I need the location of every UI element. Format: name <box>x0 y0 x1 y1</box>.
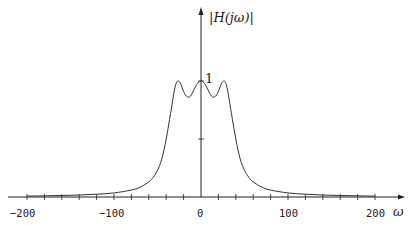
x-tick-label-100: 100 <box>279 207 298 219</box>
chart-plot-area <box>0 0 409 225</box>
x-tick-label-0: 0 <box>197 207 203 219</box>
y-axis-label: |H(jω)| <box>209 10 254 25</box>
x-tick-label-200: 200 <box>366 207 385 219</box>
axes <box>8 7 405 200</box>
x-tick-label-neg200: −200 <box>10 207 35 219</box>
x-tick-label-neg100: −100 <box>99 207 124 219</box>
y-tick-label-1: 1 <box>205 71 213 86</box>
x-axis-label: ω <box>393 204 404 219</box>
